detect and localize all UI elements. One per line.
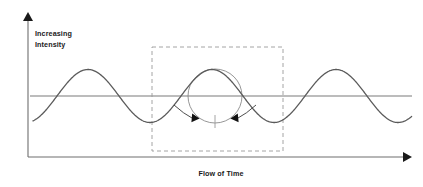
left-arrow-shaft [174, 105, 192, 118]
right-arrow-shaft [238, 105, 256, 118]
y-axis-label-line2: Intensity [35, 40, 65, 49]
x-axis-label: Flow of Time [199, 169, 244, 178]
diagram-svg: Increasing Intensity Flow of Time [0, 0, 423, 187]
highlight-box [152, 47, 283, 151]
axis-labels-group: Increasing Intensity Flow of Time [35, 29, 244, 178]
left-inward-arrow [174, 105, 200, 122]
axis-group [28, 20, 404, 157]
y-axis-label-line1: Increasing [35, 29, 72, 38]
diagram-canvas: Increasing Intensity Flow of Time [0, 0, 423, 187]
